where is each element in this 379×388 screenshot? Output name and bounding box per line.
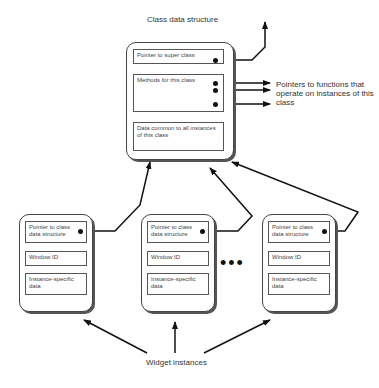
class-pointer-dot [78,229,83,234]
class-pointer-dot [200,229,205,234]
class-pointer-dot [322,229,327,234]
method-pointer-dot [213,81,218,86]
methods-annotation: Pointers to functions that operate on in… [276,80,376,107]
window-id-field: Window ID [25,251,87,266]
diagram-title: Class data structure [147,15,218,24]
class-pointer-field: Pointer to class data structure [268,221,330,243]
method-pointer-dot [213,102,218,107]
method-pointer-dot [213,88,218,93]
instance-data-field: Instance-specific data [147,273,209,295]
widget-instances-label: Widget instances [146,358,207,367]
super-class-field: Pointer to super class [133,49,224,64]
methods-field: Methods for this class [133,74,224,112]
common-data-field: Data common to all instances of this cla… [133,122,224,151]
instance-data-field: Instance-specific data [268,273,330,295]
more-instances-ellipsis: ••• [220,258,245,268]
instance-data-field: Instance-specific data [25,273,87,295]
super-pointer-dot [213,58,218,63]
window-id-field: Window ID [147,251,209,266]
window-id-field: Window ID [268,251,330,266]
